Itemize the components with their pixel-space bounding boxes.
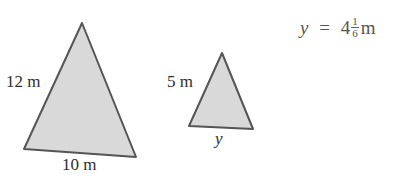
answer-unit: m [361, 17, 376, 38]
large-triangle [24, 23, 136, 157]
similar-triangles-diagram: 12 m 10 m 5 m y y = 416m [0, 0, 397, 176]
answer-denominator: 6 [351, 28, 359, 39]
answer-fraction: 16 [351, 16, 359, 39]
answer-whole: 4 [341, 17, 351, 38]
large-triangle-side-label: 12 m [6, 73, 40, 90]
answer-variable: y [300, 17, 308, 38]
answer-equals: = [319, 17, 330, 38]
answer-equation: y = 416m [300, 18, 375, 41]
large-triangle-base-label: 10 m [62, 156, 96, 173]
small-triangle [189, 53, 253, 129]
small-triangle-base-label: y [215, 130, 223, 147]
small-triangle-side-label: 5 m [167, 73, 193, 90]
